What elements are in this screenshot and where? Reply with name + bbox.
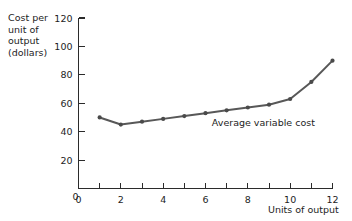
y-tick-label: 100 [54, 41, 72, 52]
chart-axes [79, 18, 333, 189]
data-point [140, 120, 144, 124]
y-tick-label: 60 [60, 98, 72, 109]
y-tick-label: 20 [60, 155, 72, 166]
y-axis-ticks: 020406080100120 [54, 13, 84, 202]
x-tick-label: 10 [284, 194, 296, 205]
x-axis-title: Units of output [268, 204, 339, 215]
data-point [119, 122, 123, 126]
x-tick-label: 4 [160, 194, 166, 205]
y-tick-label: 80 [60, 69, 72, 80]
data-point [246, 105, 250, 109]
data-point [288, 97, 292, 101]
data-point [330, 59, 334, 63]
line-chart-plot: 020406080100120 024681012 Average variab… [0, 0, 352, 221]
x-tick-label: 8 [245, 194, 251, 205]
x-tick-label: 12 [326, 194, 338, 205]
data-point [309, 80, 313, 84]
data-point [267, 103, 271, 107]
x-axis-ticks: 024681012 [75, 183, 338, 205]
data-point [161, 117, 165, 121]
x-tick-label: 6 [202, 194, 208, 205]
average-variable-cost-line [100, 61, 333, 125]
x-tick-label: 0 [75, 194, 81, 205]
data-point [182, 114, 186, 118]
data-point [203, 111, 207, 115]
data-point [225, 108, 229, 112]
data-point [98, 115, 102, 119]
y-tick-label: 40 [60, 126, 72, 137]
x-tick-label: 2 [118, 194, 124, 205]
chart-container: Cost per unit of output (dollars) 020406… [0, 0, 352, 221]
series-annotation-label: Average variable cost [212, 117, 315, 128]
y-tick-label: 120 [54, 13, 72, 24]
